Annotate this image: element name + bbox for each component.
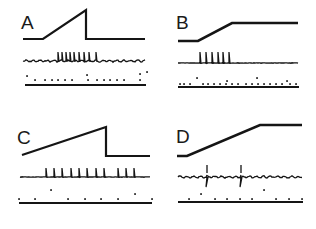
time-marker-dot xyxy=(288,198,290,200)
time-marker-dot xyxy=(213,83,215,85)
event-marker-dot xyxy=(134,193,136,195)
time-marker-dot xyxy=(87,79,89,81)
response-trace-b xyxy=(178,52,298,64)
time-marker-dot xyxy=(151,198,153,200)
electrophysiology-traces xyxy=(0,0,316,229)
time-marker-dot xyxy=(179,83,181,85)
time-marker-dot xyxy=(117,198,119,200)
time-marker-dot xyxy=(67,198,69,200)
time-marker-dot xyxy=(103,79,105,81)
time-marker-dot xyxy=(64,79,66,81)
time-marker-dot xyxy=(301,198,303,200)
time-marker-dot xyxy=(84,198,86,200)
time-marker-dot xyxy=(116,79,118,81)
time-marker-dot xyxy=(189,83,191,85)
time-marker-dot xyxy=(100,198,102,200)
time-marker-dot xyxy=(96,79,98,81)
time-marker-dot xyxy=(239,198,241,200)
event-marker-dot xyxy=(286,80,288,82)
time-marker-dot xyxy=(289,83,291,85)
time-marker-dot xyxy=(123,79,125,81)
time-marker-dot xyxy=(269,83,271,85)
response-trace-d xyxy=(178,165,302,187)
time-marker-dot xyxy=(18,198,20,200)
time-marker-dot xyxy=(51,79,53,81)
time-marker-dot xyxy=(295,83,297,85)
event-marker-dot xyxy=(200,193,202,195)
event-marker-dot xyxy=(256,77,258,79)
time-marker-dot xyxy=(207,83,209,85)
time-marker-dot xyxy=(263,83,265,85)
event-marker-dot xyxy=(26,75,28,77)
time-marker-dot xyxy=(231,83,233,85)
time-marker-dot xyxy=(275,198,277,200)
time-marker-dot xyxy=(202,83,204,85)
panel-label-c: C xyxy=(17,128,31,147)
panel-label-a: A xyxy=(21,13,34,32)
figure: A B C D xyxy=(0,0,316,229)
time-marker-dot xyxy=(226,198,228,200)
time-marker-dot xyxy=(71,79,73,81)
stimulus-trace-d xyxy=(177,125,302,156)
event-marker-dot xyxy=(50,189,52,191)
time-marker-dot xyxy=(281,83,283,85)
event-marker-dot xyxy=(196,77,198,79)
panel-label-d: D xyxy=(176,127,190,146)
time-marker-dot xyxy=(214,198,216,200)
time-marker-dot xyxy=(44,79,46,81)
panel-label-b: B xyxy=(176,13,189,32)
stimulus-trace-a xyxy=(23,10,145,39)
time-marker-dot xyxy=(225,83,227,85)
time-marker-dot xyxy=(34,79,36,81)
time-marker-dot xyxy=(34,198,36,200)
event-marker-dot xyxy=(146,71,148,73)
time-marker-dot xyxy=(139,79,141,81)
time-marker-dot xyxy=(245,83,247,85)
stimulus-trace-b xyxy=(178,23,298,41)
time-marker-dot xyxy=(237,83,239,85)
event-marker-dot xyxy=(263,189,265,191)
time-marker-dot xyxy=(188,198,190,200)
time-marker-dot xyxy=(251,198,253,200)
stimulus-trace-c xyxy=(22,127,150,156)
time-marker-dot xyxy=(219,83,221,85)
time-marker-dot xyxy=(57,79,59,81)
time-marker-dot xyxy=(275,83,277,85)
response-trace-a xyxy=(23,52,145,62)
time-marker-dot xyxy=(257,83,259,85)
response-trace-c xyxy=(20,168,150,178)
event-marker-dot xyxy=(139,73,141,75)
time-marker-dot xyxy=(183,83,185,85)
time-marker-dot xyxy=(109,79,111,81)
event-marker-dot xyxy=(86,74,88,76)
event-marker-dot xyxy=(226,80,228,82)
time-marker-dot xyxy=(251,83,253,85)
